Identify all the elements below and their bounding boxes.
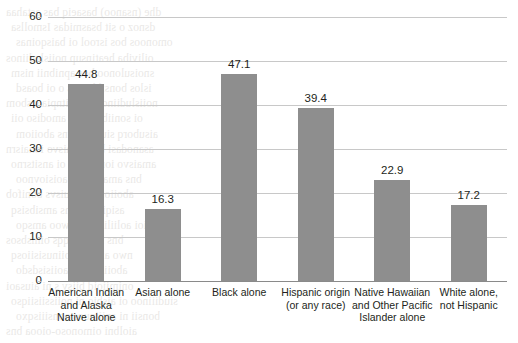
bar: [145, 209, 181, 281]
x-axis-labels: American Indianand AlaskaNative aloneAsi…: [48, 286, 507, 343]
y-tick-mark: [38, 17, 42, 18]
bar: [374, 180, 410, 281]
bar-value-label: 17.2: [439, 189, 499, 201]
bar-value-label: 22.9: [362, 164, 422, 176]
x-tick-label-line: Native Hawaiian: [350, 286, 435, 299]
bar-value-label: 44.8: [56, 68, 116, 80]
y-tick-label: 40: [8, 98, 42, 110]
x-tick-label: Native Hawaiianand Other PacificIslander…: [350, 286, 435, 324]
y-tick-label: 0: [8, 274, 42, 286]
x-axis-baseline: [48, 281, 507, 282]
x-tick-label-line: Native alone: [44, 311, 129, 324]
x-tick-label-line: Hispanic origin: [274, 286, 359, 299]
bar: [68, 84, 104, 281]
x-tick-label: Black alone: [197, 286, 282, 299]
y-tick-label: 50: [8, 54, 42, 66]
y-tick-mark: [38, 149, 42, 150]
x-tick-label-line: and Other Pacific: [350, 299, 435, 312]
bar: [298, 108, 334, 281]
x-tick-label: Asian alone: [121, 286, 206, 299]
x-tick-label-line: American Indian: [44, 286, 129, 299]
x-tick-label-line: not Hispanic: [427, 299, 512, 312]
bar: [451, 205, 487, 281]
bar-value-label: 16.3: [133, 193, 193, 205]
bars-layer: 44.816.347.139.422.917.2: [48, 17, 507, 281]
y-tick-label: 20: [8, 186, 42, 198]
y-axis: 0102030405060: [0, 17, 42, 281]
y-tick-mark: [38, 237, 42, 238]
y-tick-label: 10: [8, 230, 42, 242]
bar: [221, 74, 257, 281]
x-tick-label-line: Islander alone: [350, 311, 435, 324]
x-tick-label-line: (or any race): [274, 299, 359, 312]
bar-chart-figure: dhe (nsanoo) basaeiq bas astahaadsnoz o …: [0, 0, 518, 343]
y-tick-mark: [38, 61, 42, 62]
x-tick-label-line: White alone,: [427, 286, 512, 299]
bar-value-label: 47.1: [209, 58, 269, 70]
y-tick-mark: [38, 105, 42, 106]
y-tick-mark: [38, 281, 42, 282]
bar-value-label: 39.4: [286, 92, 346, 104]
x-tick-label-line: Asian alone: [121, 286, 206, 299]
y-tick-label: 60: [8, 10, 42, 22]
x-tick-label-line: and Alaska: [44, 299, 129, 312]
y-tick-label: 30: [8, 142, 42, 154]
x-tick-label: White alone,not Hispanic: [427, 286, 512, 311]
x-tick-label: Hispanic origin(or any race): [274, 286, 359, 311]
y-tick-mark: [38, 193, 42, 194]
x-tick-label: American Indianand AlaskaNative alone: [44, 286, 129, 324]
x-tick-label-line: Black alone: [197, 286, 282, 299]
